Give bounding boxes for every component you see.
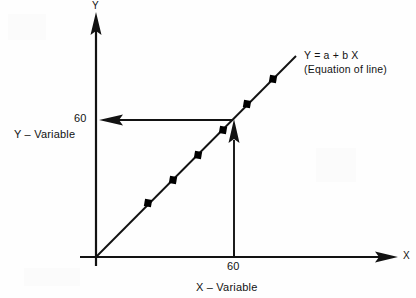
chart-canvas xyxy=(0,0,416,298)
x-axis-title: X – Variable xyxy=(196,281,258,295)
x-tick-label-60: 60 xyxy=(227,260,240,274)
y-axis-title: Y – Variable xyxy=(14,128,75,142)
x-axis-letter: X xyxy=(403,250,410,263)
equation-label-line2: (Equation of line) xyxy=(304,63,387,76)
y-axis xyxy=(91,12,102,266)
x-projection-arrow xyxy=(229,119,240,257)
y-tick-label-60: 60 xyxy=(74,112,87,126)
y-projection-arrow xyxy=(99,115,233,126)
y-axis-letter: Y xyxy=(92,0,99,13)
regression-line-figure: Y X 60 60 Y – Variable X – Variable Y = … xyxy=(0,0,416,298)
equation-label-line1: Y = a + b X xyxy=(304,49,359,62)
